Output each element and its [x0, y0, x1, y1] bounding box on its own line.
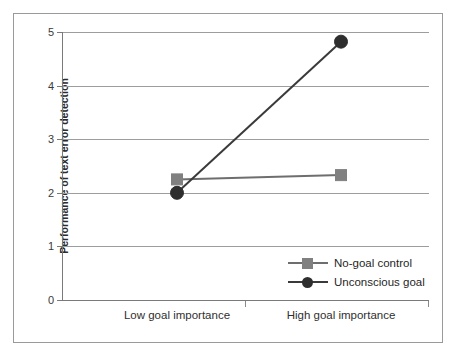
square-marker-icon [288, 256, 328, 270]
gridline-2 [62, 193, 429, 194]
chart-legend: No-goal control Unconscious goal [288, 253, 425, 291]
y-axis-line [62, 32, 63, 301]
y-tick-label-1: 1 [14, 240, 54, 252]
y-tick-label-3: 3 [14, 133, 54, 145]
legend-item-unconscious-goal[interactable]: Unconscious goal [288, 272, 425, 291]
legend-label-unconscious-goal: Unconscious goal [334, 276, 425, 288]
x-tick-label-low: Low goal importance [124, 309, 230, 321]
legend-label-no-goal-control: No-goal control [334, 257, 412, 269]
y-tick-label-4: 4 [14, 80, 54, 92]
y-axis-title: Performance of text error detection [58, 66, 70, 266]
legend-item-no-goal-control[interactable]: No-goal control [288, 253, 425, 272]
chart-figure-frame [13, 13, 443, 343]
gridline-5 [62, 32, 429, 33]
x-tick-mark-right [428, 301, 429, 307]
y-tick-label-2: 2 [14, 187, 54, 199]
gridline-4 [62, 86, 429, 87]
x-tick-mark-center [245, 301, 246, 307]
y-axis-tick-labels: 5 4 3 2 1 0 [10, 0, 54, 356]
gridline-3 [62, 139, 429, 140]
circle-marker-icon [288, 275, 328, 289]
x-tick-label-high: High goal importance [287, 309, 396, 321]
gridline-1 [62, 246, 429, 247]
y-tick-label-0: 0 [14, 294, 54, 306]
y-tick-label-5: 5 [14, 26, 54, 38]
